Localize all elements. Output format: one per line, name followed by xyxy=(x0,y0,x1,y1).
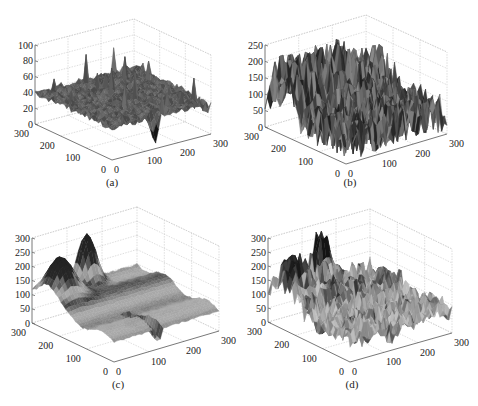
svg-text:100: 100 xyxy=(298,156,313,167)
svg-text:50: 50 xyxy=(253,105,263,116)
svg-text:150: 150 xyxy=(15,275,30,286)
surface-plot-b: 05010015020025001002003000100200300 xyxy=(244,15,464,179)
svg-text:300: 300 xyxy=(247,326,262,337)
svg-text:200: 200 xyxy=(274,339,289,350)
svg-text:100: 100 xyxy=(151,356,166,367)
svg-text:0: 0 xyxy=(339,366,344,377)
surface-mesh xyxy=(268,231,452,347)
svg-text:150: 150 xyxy=(248,72,263,83)
svg-text:200: 200 xyxy=(251,261,266,272)
svg-text:250: 250 xyxy=(251,247,266,258)
x-axis-ticks: 0100200300 xyxy=(352,337,469,377)
svg-text:100: 100 xyxy=(386,356,401,367)
svg-text:200: 200 xyxy=(38,340,53,351)
svg-text:100: 100 xyxy=(251,289,266,300)
svg-text:100: 100 xyxy=(18,40,33,51)
y-axis-ticks: 0100200300 xyxy=(14,128,106,175)
svg-text:50: 50 xyxy=(256,303,266,314)
svg-text:40: 40 xyxy=(23,87,33,98)
svg-text:300: 300 xyxy=(454,337,469,348)
svg-text:300: 300 xyxy=(15,233,30,244)
svg-text:300: 300 xyxy=(251,233,266,244)
surface-mesh xyxy=(32,234,219,343)
surface-plot-a: 02040608010001002003000100200300 xyxy=(14,19,228,175)
caption-c: (c) xyxy=(98,378,138,390)
svg-text:200: 200 xyxy=(15,261,30,272)
svg-text:300: 300 xyxy=(449,138,464,149)
surface-plot-d: 05010015020025030001002003000100200300 xyxy=(247,209,469,377)
svg-text:300: 300 xyxy=(11,327,26,338)
caption-b: (b) xyxy=(330,176,370,188)
svg-text:50: 50 xyxy=(20,303,30,314)
svg-text:200: 200 xyxy=(180,147,195,158)
svg-text:100: 100 xyxy=(15,289,30,300)
svg-text:100: 100 xyxy=(248,89,263,100)
svg-text:0: 0 xyxy=(101,164,106,175)
svg-text:80: 80 xyxy=(23,55,33,66)
svg-text:300: 300 xyxy=(213,138,228,149)
svg-text:0: 0 xyxy=(352,366,357,377)
svg-text:100: 100 xyxy=(147,155,162,166)
svg-text:100: 100 xyxy=(65,152,80,163)
svg-text:200: 200 xyxy=(186,345,201,356)
svg-text:0: 0 xyxy=(116,366,121,377)
svg-text:60: 60 xyxy=(23,71,33,82)
svg-text:200: 200 xyxy=(271,143,286,154)
x-axis-ticks: 0100200300 xyxy=(114,138,228,175)
svg-text:250: 250 xyxy=(15,247,30,258)
figure: 02040608010001002003000100200300 0501001… xyxy=(0,0,478,406)
svg-text:300: 300 xyxy=(221,335,236,346)
svg-text:20: 20 xyxy=(23,103,33,114)
svg-text:100: 100 xyxy=(302,353,317,364)
svg-text:300: 300 xyxy=(244,131,259,142)
svg-text:200: 200 xyxy=(40,140,55,151)
svg-text:0: 0 xyxy=(103,366,108,377)
plots-canvas: 02040608010001002003000100200300 0501001… xyxy=(0,0,478,406)
surface-mesh xyxy=(35,48,211,143)
svg-text:300: 300 xyxy=(14,128,29,139)
svg-text:100: 100 xyxy=(66,353,81,364)
caption-d: (d) xyxy=(332,378,372,390)
svg-text:150: 150 xyxy=(251,275,266,286)
caption-a: (a) xyxy=(92,176,132,188)
svg-text:200: 200 xyxy=(248,56,263,67)
surface-plot-c: 05010015020025030001002003000100200300 xyxy=(11,207,236,377)
svg-text:0: 0 xyxy=(114,164,119,175)
svg-text:200: 200 xyxy=(415,148,430,159)
svg-text:200: 200 xyxy=(420,347,435,358)
svg-text:100: 100 xyxy=(382,158,397,169)
svg-text:250: 250 xyxy=(248,40,263,51)
